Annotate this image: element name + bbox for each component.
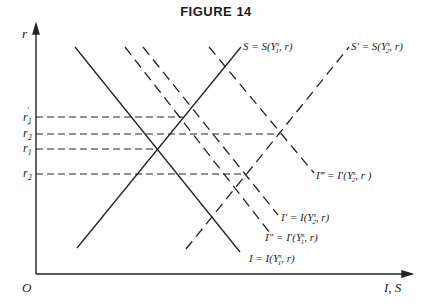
label-I: I = I(Ys1, r)	[248, 252, 295, 267]
label-I-triple-prime: I‴ = I′(Ys2, r )	[315, 169, 372, 184]
y-axis-arrow-icon	[33, 24, 39, 34]
x-axis-arrow-icon	[402, 271, 412, 277]
origin-label: O	[22, 280, 32, 295]
curve-S	[77, 47, 241, 248]
label-I-prime: I′ = I(Ys2, r)	[280, 211, 329, 226]
label-S-prime: S′ = S(Ys2, r)	[351, 40, 403, 55]
label-I-double-prime: I″ = I′(Ys1, r)	[264, 231, 318, 246]
rate-labels: r1′ r2′ r1 r2	[23, 105, 32, 182]
axes	[33, 24, 412, 277]
r1-label: r1	[23, 141, 32, 157]
r2-label: r2	[23, 166, 32, 182]
y-axis-label: r	[22, 26, 28, 41]
curve-I-double-prime	[125, 47, 270, 233]
x-axis-label: I, S	[383, 280, 402, 295]
is-diagram: r I, S O r1′ r2′ r1 r2 S = S(Ys1, r) S′ …	[0, 0, 432, 304]
rate-lines	[36, 117, 280, 174]
label-S: S = S(Ys1, r)	[243, 40, 293, 55]
curve-I-prime	[143, 47, 278, 215]
